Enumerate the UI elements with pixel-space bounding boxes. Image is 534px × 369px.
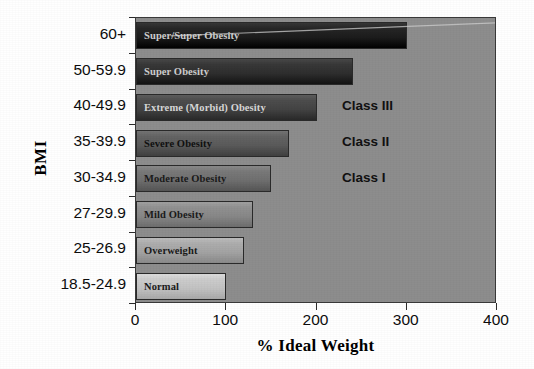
bar-label-4: Severe Obesity: [137, 138, 212, 149]
bar-label-6: Mild Obesity: [137, 209, 204, 220]
bar-label-5: Moderate Obesity: [137, 173, 226, 184]
y-tick-60+: 60+: [0, 25, 126, 43]
bar-2[interactable]: Super Obesity: [136, 58, 353, 85]
x-tick-mark-200: [316, 303, 317, 310]
bar-label-1: Super/Super Obesity: [137, 30, 239, 41]
bar-3[interactable]: Extreme (Morbid) Obesity: [136, 94, 317, 121]
bar-6[interactable]: Mild Obesity: [136, 201, 253, 228]
x-tick-label-300: 300: [376, 311, 436, 329]
y-tick-35-39.9: 35-39.9: [0, 132, 126, 150]
bar-label-3: Extreme (Morbid) Obesity: [137, 102, 266, 113]
x-tick-mark-0: [135, 303, 136, 310]
y-tick-25-26.9: 25-26.9: [0, 239, 126, 257]
y-tick-50-59.9: 50-59.9: [0, 61, 126, 79]
class-label-2: Class II: [342, 134, 389, 149]
bar-label-7: Overweight: [137, 245, 198, 256]
x-axis-title: % Ideal Weight: [135, 336, 496, 356]
y-tick-27-29.9: 27-29.9: [0, 204, 126, 222]
bar-4[interactable]: Severe Obesity: [136, 130, 289, 157]
x-tick-mark-400: [496, 303, 497, 310]
y-tick-40-49.9: 40-49.9: [0, 96, 126, 114]
bar-8[interactable]: Normal: [136, 273, 226, 300]
bar-1[interactable]: Super/Super Obesity: [136, 22, 407, 49]
bar-label-2: Super Obesity: [137, 66, 209, 77]
x-tick-label-200: 200: [286, 311, 346, 329]
plot-area: Super/Super ObesitySuper ObesityExtreme …: [135, 17, 496, 303]
bmi-ideal-weight-chart: BMI 60+50-59.940-49.935-39.930-34.927-29…: [0, 0, 534, 369]
y-axis-title: BMI: [31, 113, 51, 203]
class-label-3: Class I: [342, 170, 386, 185]
x-tick-mark-100: [225, 303, 226, 310]
x-tick-label-0: 0: [105, 311, 165, 329]
x-tick-label-400: 400: [466, 311, 526, 329]
y-tick-30-34.9: 30-34.9: [0, 168, 126, 186]
class-label-1: Class III: [342, 98, 393, 113]
bar-7[interactable]: Overweight: [136, 237, 244, 264]
bar-label-8: Normal: [137, 281, 179, 292]
x-tick-label-100: 100: [195, 311, 255, 329]
x-tick-mark-300: [406, 303, 407, 310]
y-tick-18.5-24.9: 18.5-24.9: [0, 275, 126, 293]
bar-5[interactable]: Moderate Obesity: [136, 165, 271, 192]
